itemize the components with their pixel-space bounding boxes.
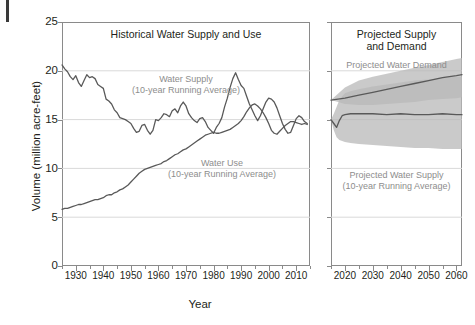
x-tick-label-2010: 2010	[285, 270, 307, 281]
x-tick-mark	[145, 266, 146, 269]
x-tick-mark	[117, 266, 118, 269]
annotation-projected-supply-line2: (10-year Running Average)	[329, 181, 464, 192]
projected-panel-title-line2: and Demand	[331, 40, 462, 52]
projected-panel-title-line1: Projected Supply	[331, 28, 462, 40]
x-tick-mark	[172, 266, 173, 269]
projected-plot	[331, 22, 462, 266]
figure-root: Volume (million acre-feet) 25 20 15 10 5…	[0, 0, 475, 325]
y-tick-mark	[327, 266, 331, 267]
x-tick-mark	[359, 266, 360, 269]
historical-plot	[62, 22, 310, 266]
x-tick-mark	[331, 266, 332, 269]
y-axis-ticks: 25 20 15 10 5 0	[28, 0, 58, 325]
y-tick-25: 25	[30, 15, 58, 27]
y-tick-mark	[327, 168, 331, 169]
x-tick-mark	[90, 266, 91, 269]
x-tick-label-1970: 1970	[175, 270, 197, 281]
x-tick-label-2040: 2040	[390, 270, 412, 281]
y-tick-5: 5	[30, 211, 58, 223]
x-tick-label-1980: 1980	[202, 270, 224, 281]
x-tick-label-2020: 2020	[334, 270, 356, 281]
x-tick-mark	[282, 266, 283, 269]
x-tick-label-1930: 1930	[65, 270, 87, 281]
annotation-water-use-line1: Water Use	[152, 158, 292, 169]
y-tick-mark	[58, 120, 62, 121]
y-tick-mark	[58, 22, 62, 23]
y-tick-15: 15	[30, 113, 58, 125]
x-tick-label-2050: 2050	[417, 270, 439, 281]
annotation-water-use-line2: (10-year Running Average)	[152, 169, 292, 180]
x-tick-label-2030: 2030	[362, 270, 384, 281]
y-tick-mark	[327, 217, 331, 218]
y-tick-0: 0	[30, 259, 58, 271]
x-tick-label-2060: 2060	[445, 270, 467, 281]
x-tick-label-1940: 1940	[92, 270, 114, 281]
x-tick-label-1950: 1950	[120, 270, 142, 281]
y-tick-mark	[58, 71, 62, 72]
projected-panel: Projected Supply and Demand Projected Wa…	[331, 22, 462, 266]
annotation-water-use: Water Use (10-year Running Average)	[152, 158, 292, 180]
annotation-water-supply: Water Supply (10-year Running Average)	[116, 74, 256, 96]
annotation-projected-supply-line1: Projected Water Supply	[329, 170, 464, 181]
x-tick-mark	[200, 266, 201, 269]
x-tick-label-2000: 2000	[258, 270, 280, 281]
x-tick-mark	[310, 266, 311, 269]
annotation-water-supply-line2: (10-year Running Average)	[116, 85, 256, 96]
x-tick-mark	[62, 266, 63, 269]
y-tick-mark	[58, 217, 62, 218]
x-tick-label-1960: 1960	[147, 270, 169, 281]
annotation-projected-demand: Projected Water Demand	[329, 60, 464, 71]
x-tick-label-1990: 1990	[230, 270, 252, 281]
annotation-water-supply-line1: Water Supply	[116, 74, 256, 85]
x-axis-title: Year	[140, 298, 260, 310]
y-tick-mark	[58, 168, 62, 169]
page-edge-mark	[6, 0, 9, 22]
y-tick-20: 20	[30, 64, 58, 76]
y-tick-mark	[327, 22, 331, 23]
annotation-projected-supply: Projected Water Supply (10-year Running …	[329, 170, 464, 192]
x-tick-mark	[443, 266, 444, 269]
y-tick-mark	[327, 71, 331, 72]
y-tick-mark	[58, 266, 62, 267]
x-tick-mark	[227, 266, 228, 269]
x-tick-mark	[415, 266, 416, 269]
historical-panel-title: Historical Water Supply and Use	[62, 28, 310, 40]
y-tick-10: 10	[30, 162, 58, 174]
y-tick-mark	[327, 120, 331, 121]
x-tick-mark	[255, 266, 256, 269]
x-tick-mark	[387, 266, 388, 269]
historical-panel: Historical Water Supply and Use Water Su…	[62, 22, 310, 266]
